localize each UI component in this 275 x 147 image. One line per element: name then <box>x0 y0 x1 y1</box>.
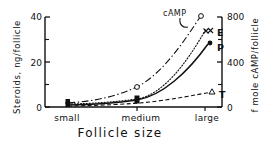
series-line-camp <box>68 17 200 103</box>
series-line-e <box>68 29 206 104</box>
series-point-p-legend <box>208 41 213 46</box>
series-point-p-medium <box>135 96 140 104</box>
series-point-camp-medium <box>135 85 140 90</box>
chart-figure: Steroids, ng/follicle f mole cAMP/follic… <box>0 0 275 147</box>
series-point-e-legend <box>208 28 213 33</box>
series-point-camp-large <box>199 14 204 19</box>
annotation-leader-camp <box>180 18 188 27</box>
series-point-t-large <box>209 89 215 94</box>
plot-canvas <box>0 0 275 147</box>
